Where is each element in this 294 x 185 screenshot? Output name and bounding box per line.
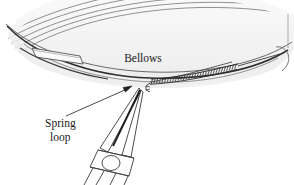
callout-arrowhead-icon <box>123 86 132 92</box>
spring-loop-label-line1: Spring <box>45 117 76 130</box>
spring-loop-label-line2: loop <box>50 131 71 144</box>
bellows-diagram-svg: Spring loop Bellows <box>0 0 294 185</box>
bellows-body <box>0 0 294 88</box>
pliers-handle-b-right <box>124 176 128 185</box>
pliers-handle-a-left <box>84 168 93 185</box>
callout-leader-line <box>66 89 127 116</box>
pliers-handle-a-right <box>96 171 104 185</box>
needle-nose-pliers <box>84 88 143 185</box>
pliers-handle-b-left <box>110 173 116 185</box>
pliers-pivot-rivet <box>102 156 120 171</box>
figure-root: Spring loop Bellows <box>0 0 294 185</box>
bellows-label: Bellows <box>124 52 162 64</box>
